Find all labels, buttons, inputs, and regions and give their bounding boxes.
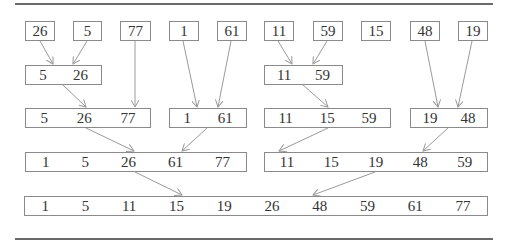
array-box: 19 48 (410, 108, 488, 128)
array-value: 1 (42, 155, 50, 170)
arrow (40, 41, 53, 64)
arrow (135, 172, 182, 195)
array-box: 5 (73, 21, 102, 41)
arrow (86, 128, 134, 151)
array-value: 19 (466, 24, 481, 39)
arrow (183, 41, 197, 107)
array-box: 5 26 (25, 65, 102, 85)
array-box: 19 (458, 21, 488, 41)
arrow (313, 172, 375, 195)
arrow (73, 41, 87, 64)
array-value: 11 (278, 111, 292, 126)
arrow (279, 128, 328, 151)
array-box: 1 61 (169, 108, 247, 128)
array-value: 59 (360, 199, 375, 214)
array-value: 48 (418, 24, 433, 39)
array-box: 77 (120, 21, 151, 41)
array-box: 1 5 11 15 19 26 48 59 61 77 (24, 196, 488, 216)
array-value: 11 (280, 155, 294, 170)
array-value: 26 (265, 199, 280, 214)
array-value: 48 (312, 199, 327, 214)
arrow (63, 85, 86, 107)
array-value: 48 (413, 155, 428, 170)
array-box: 61 (217, 21, 247, 41)
array-value: 77 (215, 155, 230, 170)
array-value: 59 (321, 24, 336, 39)
array-value: 1 (41, 199, 49, 214)
array-value: 15 (324, 155, 339, 170)
arrow (313, 41, 327, 64)
array-value: 61 (408, 199, 423, 214)
array-value: 1 (180, 24, 188, 39)
array-box: 11 15 59 (264, 108, 391, 128)
array-box: 1 (169, 21, 199, 41)
array-value: 5 (84, 24, 92, 39)
array-value: 61 (168, 155, 183, 170)
array-box: 26 (25, 21, 55, 41)
array-box: 48 (410, 21, 440, 41)
array-value: 59 (457, 155, 472, 170)
array-value: 19 (217, 199, 232, 214)
array-value: 15 (320, 111, 335, 126)
array-value: 77 (456, 199, 471, 214)
array-box: 1 5 26 61 77 (25, 152, 247, 172)
arrow (425, 41, 438, 107)
array-value: 77 (121, 111, 136, 126)
arrow (458, 41, 472, 107)
array-value: 5 (40, 111, 48, 126)
array-value: 11 (122, 199, 136, 214)
array-value: 61 (225, 24, 240, 39)
array-value: 26 (121, 155, 136, 170)
array-value: 26 (77, 111, 92, 126)
arrow (303, 85, 328, 107)
array-value: 19 (423, 111, 438, 126)
array-value: 77 (128, 24, 143, 39)
array-value: 5 (82, 155, 90, 170)
array-value: 11 (272, 24, 286, 39)
array-value: 26 (33, 24, 48, 39)
array-value: 1 (183, 111, 191, 126)
array-value: 15 (369, 24, 384, 39)
array-value: 59 (362, 111, 377, 126)
array-value: 26 (73, 68, 88, 83)
arrow (182, 128, 207, 151)
arrow (278, 41, 292, 64)
array-value: 5 (82, 199, 90, 214)
array-value: 5 (39, 68, 47, 83)
array-box: 11 59 (264, 65, 343, 85)
array-box: 11 15 19 48 59 (264, 152, 488, 172)
array-box: 5 26 77 (25, 108, 151, 128)
array-value: 15 (169, 199, 184, 214)
array-value: 59 (315, 68, 330, 83)
arrow (218, 41, 231, 107)
array-box: 15 (361, 21, 391, 41)
array-value: 61 (218, 111, 233, 126)
array-value: 11 (277, 68, 291, 83)
array-box: 11 (264, 21, 294, 41)
array-box: 59 (313, 21, 343, 41)
array-value: 19 (368, 155, 383, 170)
array-value: 48 (461, 111, 476, 126)
arrow (423, 128, 448, 151)
